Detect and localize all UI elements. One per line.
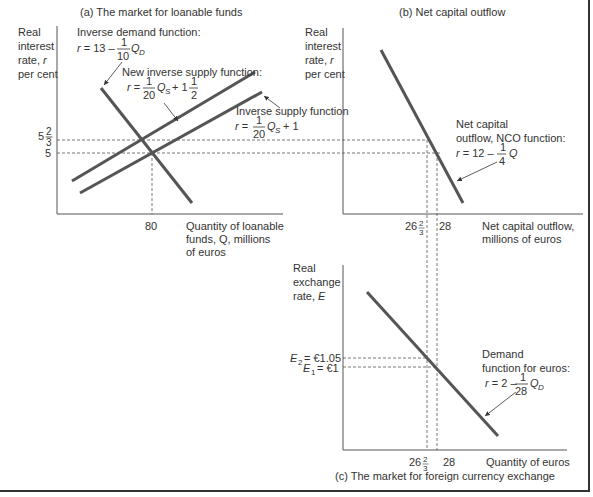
svg-text:r =: r = <box>235 120 248 132</box>
three-panel-diagram: (a) The market for loanable funds Real i… <box>0 0 593 497</box>
panel-b-ylabel-4: per cent <box>305 68 345 80</box>
panel-b-xtick-26-2-3: 26 2 3 <box>405 219 425 237</box>
svg-text:D: D <box>139 48 145 57</box>
svg-text:r = 13 –: r = 13 – <box>77 42 115 54</box>
svg-text:1: 1 <box>520 371 526 383</box>
panel-a-ylabel-3: rate, r <box>18 54 48 66</box>
panel-c-foreign-exchange: Real exchange rate, E E 2 = €1.05 E 1 = … <box>290 262 570 482</box>
svg-text:S: S <box>275 126 281 135</box>
svg-text:1: 1 <box>121 36 127 48</box>
panel-a-new-supply-arrow <box>164 103 178 121</box>
panel-b-nco-label-2: outflow, NCO function: <box>456 132 565 144</box>
panel-a-ytick-5: 5 <box>45 147 51 159</box>
panel-a-xtick-80: 80 <box>145 220 157 232</box>
svg-text:= €1: = €1 <box>317 362 339 374</box>
svg-text:E: E <box>290 352 298 364</box>
svg-text:1: 1 <box>500 141 506 153</box>
panel-c-ytick-e1: E 1 = €1 <box>303 362 339 377</box>
panel-b-title: (b) Net capital outflow <box>399 6 505 18</box>
svg-text:2: 2 <box>419 219 424 228</box>
svg-text:10: 10 <box>117 50 129 62</box>
panel-a-supply-equation: r = 1 20 QS + 1 <box>235 114 299 140</box>
panel-c-title: (c) The market for foreign currency exch… <box>335 470 555 482</box>
panel-b-ylabel-2: interest <box>305 40 341 52</box>
svg-text:2: 2 <box>46 126 52 137</box>
svg-text:1: 1 <box>311 368 316 377</box>
svg-text:+ 1: + 1 <box>283 120 299 132</box>
panel-b-nco-arrow <box>457 162 497 181</box>
panel-a-xlabel-1: Quantity of loanable <box>186 220 284 232</box>
panel-a-demand-equation: r = 13 – 1 10 QD <box>77 36 145 62</box>
panel-a-loanable-funds: (a) The market for loanable funds Real i… <box>18 6 440 258</box>
svg-text:3: 3 <box>419 228 424 237</box>
svg-text:1: 1 <box>146 75 152 87</box>
panel-a-demand-curve <box>101 88 192 203</box>
panel-b-nco-equation: r = 12 – 1 4 Q <box>456 141 518 167</box>
svg-text:2: 2 <box>191 89 197 101</box>
panel-b-xlabel-1: Net capital outflow, <box>482 220 574 232</box>
panel-b-ylabel-1: Real <box>305 26 328 38</box>
panel-c-demand-arrow <box>485 392 516 416</box>
svg-text:26: 26 <box>405 220 417 232</box>
svg-text:2: 2 <box>423 455 428 464</box>
svg-text:1: 1 <box>191 75 197 87</box>
panel-a-ylabel-1: Real <box>18 26 41 38</box>
panel-a-xlabel-3: of euros <box>186 246 226 258</box>
panel-a-demand-arrow <box>104 62 122 85</box>
svg-text:26: 26 <box>409 456 421 468</box>
svg-text:4: 4 <box>499 155 505 167</box>
svg-text:r = 2 –: r = 2 – <box>485 377 517 389</box>
svg-text:5: 5 <box>38 130 44 142</box>
panel-b-xlabel-2: millions of euros <box>482 233 562 245</box>
panel-c-ylabel-3: rate, E <box>293 290 326 302</box>
panel-b-ylabel-3: rate, r <box>305 54 335 66</box>
svg-text:r =: r = <box>127 81 140 93</box>
svg-text:r = 12 –: r = 12 – <box>456 147 494 159</box>
svg-text:D: D <box>538 383 544 392</box>
panel-b-xtick-28: 28 <box>439 220 451 232</box>
panel-a-supply-label: Inverse supply function <box>236 105 349 117</box>
panel-b-nco-curve <box>381 50 463 203</box>
panel-c-xlabel: Quantity of euros <box>486 456 570 468</box>
panel-a-xlabel-2: funds, Q, millions <box>186 233 271 245</box>
svg-text:Q: Q <box>509 147 518 159</box>
panel-a-demand-label: Inverse demand function: <box>77 26 201 38</box>
svg-text:E: E <box>303 362 311 374</box>
panel-a-ylabel-2: interest <box>18 40 54 52</box>
svg-text:20: 20 <box>253 128 265 140</box>
panel-a-new-supply-equation: r = 1 20 QS + 1 1 2 <box>127 75 198 101</box>
svg-text:S: S <box>165 87 171 96</box>
panel-c-demand-label-1: Demand <box>482 348 524 360</box>
panel-a-title: (a) The market for loanable funds <box>80 6 243 18</box>
panel-a-ytick-5-2-3: 5 2 3 <box>38 126 53 148</box>
svg-text:1: 1 <box>256 114 262 126</box>
panel-c-ylabel-2: exchange <box>293 276 341 288</box>
svg-text:20: 20 <box>143 89 155 101</box>
svg-text:28: 28 <box>515 385 527 397</box>
panel-c-demand-curve <box>367 292 498 436</box>
panel-a-ylabel-4: per cent <box>18 68 58 80</box>
svg-text:+ 1: + 1 <box>172 81 188 93</box>
panel-c-ylabel-1: Real <box>293 262 316 274</box>
panel-c-xtick-28: 28 <box>443 456 455 468</box>
panel-b-nco-label-1: Net capital <box>456 118 508 130</box>
